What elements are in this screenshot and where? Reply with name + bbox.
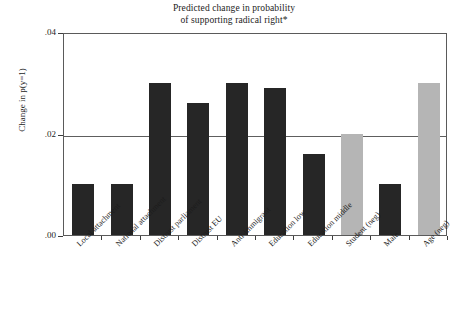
gridline-002 [64, 136, 446, 137]
x-axis-tick-mark [255, 236, 256, 240]
y-axis-title: Change in p(y=1) [17, 30, 27, 170]
x-axis-tick-mark [370, 236, 371, 240]
x-axis-tick-mark [101, 236, 102, 240]
y-axis-tick-label: .04 [10, 27, 56, 37]
x-axis-tick-mark [178, 236, 179, 240]
y-axis-tick-label: .00 [10, 230, 56, 240]
y-axis-tick-mark [58, 236, 63, 237]
bar [226, 83, 248, 235]
x-axis-tick-mark [217, 236, 218, 240]
y-axis-tick-label: .02 [10, 129, 56, 139]
chart-title-line-2: of supporting radical right* [0, 14, 468, 26]
bar [341, 134, 363, 236]
bar [303, 154, 325, 235]
chart-title-line-1: Predicted change in probability [0, 2, 468, 14]
chart-title: Predicted change in probability of suppo… [0, 2, 468, 26]
x-axis-tick-mark [293, 236, 294, 240]
chart-figure: Predicted change in probability of suppo… [0, 0, 468, 319]
x-axis-tick-mark [140, 236, 141, 240]
x-axis-tick-mark [447, 236, 448, 240]
x-axis-tick-mark [332, 236, 333, 240]
x-axis-tick-mark [409, 236, 410, 240]
bar [418, 83, 440, 235]
bar [379, 184, 401, 235]
